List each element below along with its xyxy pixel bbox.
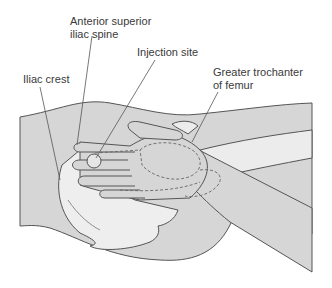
injection-site-marker <box>87 154 101 168</box>
label-greater-trochanter: Greater trochanter of femur <box>213 66 303 92</box>
label-line: Greater trochanter <box>213 66 303 79</box>
diagram-artwork <box>0 0 332 288</box>
label-anterior-superior-iliac-spine: Anterior superior iliac spine <box>70 15 151 41</box>
finger-little <box>100 190 145 198</box>
anatomy-diagram: Anterior superior iliac spine Injection … <box>0 0 332 288</box>
finger-ring <box>78 176 135 186</box>
label-line: Iliac crest <box>23 73 69 86</box>
label-iliac-crest: Iliac crest <box>23 73 69 86</box>
label-line: Injection site <box>137 46 198 59</box>
label-line: Anterior superior <box>70 15 151 28</box>
label-line: iliac spine <box>70 28 151 41</box>
label-injection-site: Injection site <box>137 46 198 59</box>
label-line: of femur <box>213 79 303 92</box>
